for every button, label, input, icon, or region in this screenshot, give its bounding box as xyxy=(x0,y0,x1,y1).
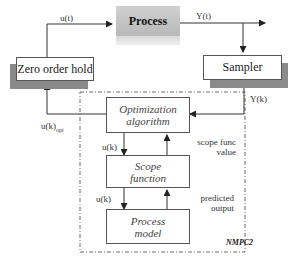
optimization-algorithm-block: Optimization algorithm xyxy=(106,97,190,133)
sampler-block: Sampler xyxy=(203,55,282,80)
predicted-output-line1: predicted xyxy=(201,193,234,203)
process-block-base xyxy=(116,36,180,45)
signal-u-k-opt-sub: opt xyxy=(56,127,64,133)
predicted-output-line2: output xyxy=(211,203,234,213)
nmpc2-group-label: NMPC2 xyxy=(226,238,253,247)
signal-y-t: Y(t) xyxy=(196,11,211,21)
process-model-label-line2: model xyxy=(135,227,162,239)
nmpc-block-diagram: Process Zero order hold Sampler Optimiza… xyxy=(0,0,290,261)
signal-predicted-output: predicted output xyxy=(176,193,234,213)
process-label: Process xyxy=(129,14,167,29)
signal-u-k-1: u(k) xyxy=(102,142,117,152)
sampler-label: Sampler xyxy=(223,60,263,75)
zero-order-hold-block: Zero order hold xyxy=(16,57,94,81)
signal-u-t: u(t) xyxy=(60,13,73,23)
process-block: Process xyxy=(116,6,180,36)
scope-label-line2: function xyxy=(130,172,166,184)
signal-u-k-2: u(k) xyxy=(96,194,111,204)
optimization-label-line2: algorithm xyxy=(126,115,169,127)
scope-label-line1: Scope xyxy=(135,160,161,172)
process-model-block: Process model xyxy=(106,209,190,244)
zero-order-hold-label: Zero order hold xyxy=(17,62,92,77)
signal-y-k: Y(k) xyxy=(250,94,267,104)
scope-func-value-line2: value xyxy=(217,147,237,157)
signal-u-k-opt: u(k)opt xyxy=(41,121,64,135)
scope-function-block: Scope function xyxy=(106,155,190,188)
process-model-label-line1: Process xyxy=(131,215,165,227)
optimization-label-line1: Optimization xyxy=(119,103,176,115)
scope-func-value-line1: scope func xyxy=(197,137,236,147)
signal-u-k-opt-main: u(k) xyxy=(41,121,56,131)
signal-scope-func-value: scope func value xyxy=(176,137,236,157)
